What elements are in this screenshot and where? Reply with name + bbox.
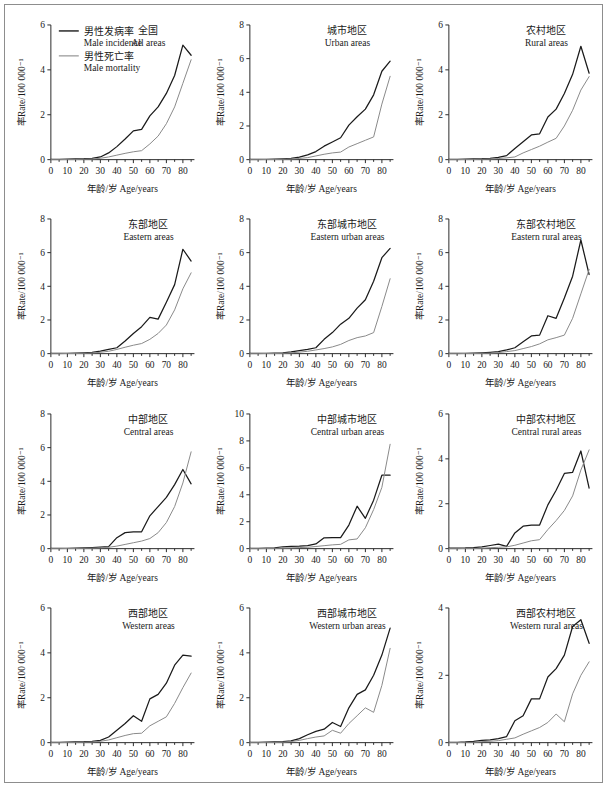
x-axis-title: 年龄/岁 Age/years [286,765,357,776]
x-tick-label: 70 [162,166,172,176]
x-tick-label: 30 [96,748,106,758]
y-tick-label: 6 [438,248,443,258]
panel-title-cn: 西部农村地区 [516,607,576,619]
x-tick-label: 60 [344,748,354,758]
series-line-mortality [250,76,390,159]
x-tick-label: 50 [129,554,139,564]
panel-title-en: Central urban areas [311,426,385,436]
y-tick-label: 4 [239,648,244,658]
y-tick-label: 4 [239,490,244,500]
x-tick-label: 30 [295,554,305,564]
y-tick-label: 0 [40,349,45,359]
x-tick-label: 30 [295,748,305,758]
y-tick-label: 0 [239,738,244,748]
x-tick-label: 60 [344,554,354,564]
x-tick-label: 40 [112,166,122,176]
legend-label-en: Male mortality [84,63,141,73]
x-tick-label: 10 [461,554,471,564]
panel-title-en: Central areas [124,426,174,436]
series-line-mortality [250,444,390,548]
x-tick-label: 80 [178,554,188,564]
panel-plot-7: 024681001020304050607080年龄/岁 Age/years率R… [204,394,403,588]
x-tick-label: 40 [112,748,122,758]
panel-grid: 024601020304050607080年龄/岁 Age/years率Rate… [5,5,602,782]
y-tick-label: 4 [438,603,443,613]
y-tick-label: 0 [239,349,244,359]
series-line-mortality [449,77,589,160]
x-tick-label: 80 [576,360,586,370]
x-tick-label: 70 [361,554,371,564]
x-tick-label: 0 [48,166,53,176]
x-tick-label: 10 [262,554,272,564]
y-tick-label: 6 [40,20,45,30]
y-axis-title: 率Rate/100 000⁻¹ [16,641,27,709]
y-axis-title: 率Rate/100 000⁻¹ [215,58,226,126]
series-line-mortality [51,451,191,548]
x-tick-label: 80 [377,166,387,176]
y-axis-title: 率Rate/100 000⁻¹ [215,641,226,709]
x-tick-label: 60 [145,554,155,564]
x-tick-label: 50 [328,166,338,176]
x-tick-label: 20 [477,748,487,758]
y-tick-label: 2 [438,499,443,509]
x-tick-label: 60 [145,360,155,370]
x-axis-title: 年龄/岁 Age/years [286,571,357,582]
panel-plot-10: 024601020304050607080年龄/岁 Age/years率Rate… [204,588,403,782]
y-tick-label: 4 [438,454,443,464]
x-tick-label: 70 [560,748,570,758]
y-tick-label: 4 [40,282,45,292]
x-tick-label: 70 [361,748,371,758]
y-tick-label: 6 [239,54,244,64]
series-line-incidence [449,46,589,159]
x-axis-title: 年龄/岁 Age/years [485,571,556,582]
y-tick-label: 10 [234,409,244,419]
panel-title-en: Rural areas [525,38,568,48]
chart-panel: 0246801020304050607080年龄/岁 Age/years率Rat… [403,199,602,393]
panel-plot-2: 024601020304050607080年龄/岁 Age/years率Rate… [403,5,602,199]
y-axis-title: 率Rate/100 000⁻¹ [16,447,27,515]
y-tick-label: 8 [40,215,45,225]
x-tick-label: 60 [145,748,155,758]
x-tick-label: 70 [162,748,172,758]
x-tick-label: 50 [527,360,537,370]
x-tick-label: 30 [494,554,504,564]
legend-label-cn: 男性发病率 [84,25,134,37]
y-axis-title: 率Rate/100 000⁻¹ [414,58,425,126]
x-tick-label: 40 [311,360,321,370]
y-tick-label: 6 [438,409,443,419]
panel-title-en: Eastern rural areas [511,232,582,242]
series-line-mortality [51,273,191,354]
y-tick-label: 0 [438,155,443,165]
y-tick-label: 2 [40,316,45,326]
y-axis-title: 率Rate/100 000⁻¹ [215,447,226,515]
y-tick-label: 8 [239,436,244,446]
y-tick-label: 4 [239,282,244,292]
panel-plot-1: 0246801020304050607080年龄/岁 Age/years率Rat… [204,5,403,199]
y-tick-label: 8 [438,215,443,225]
x-tick-label: 10 [63,360,73,370]
series-line-incidence [449,450,589,547]
x-tick-label: 70 [162,360,172,370]
x-tick-label: 30 [295,360,305,370]
panel-title-cn: 东部城市地区 [317,218,377,230]
x-tick-label: 80 [178,360,188,370]
x-tick-label: 40 [311,554,321,564]
x-tick-label: 80 [377,748,387,758]
y-axis-title: 率Rate/100 000⁻¹ [16,253,27,321]
legend-label-cn: 男性死亡率 [84,50,134,62]
chart-panel: 024601020304050607080年龄/岁 Age/years率Rate… [403,394,602,588]
x-tick-label: 40 [510,166,520,176]
y-tick-label: 6 [239,463,244,473]
legend-label-en: Male incidence [84,38,142,48]
x-axis-title: 年龄/岁 Age/years [87,377,158,388]
panel-title-en: Eastern areas [123,232,174,242]
y-tick-label: 2 [239,121,244,131]
y-tick-label: 4 [438,282,443,292]
x-tick-label: 30 [494,748,504,758]
series-line-mortality [51,673,191,743]
x-axis-title: 年龄/岁 Age/years [87,571,158,582]
x-tick-label: 40 [510,748,520,758]
x-tick-label: 20 [79,554,89,564]
x-tick-label: 80 [178,748,188,758]
x-axis-title: 年龄/岁 Age/years [87,765,158,776]
